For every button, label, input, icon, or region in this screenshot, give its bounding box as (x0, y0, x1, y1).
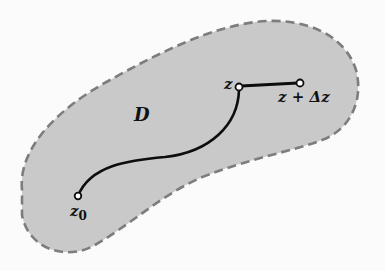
domain-diagram (0, 0, 385, 271)
z0-base: z (70, 202, 79, 220)
z0-subscript: 0 (79, 209, 87, 223)
point-z0 (75, 193, 82, 200)
point-z-plus-delta (297, 80, 304, 87)
point-label-z0: z0 (70, 204, 87, 222)
point-label-z-plus-delta-z: z + Δz (278, 90, 330, 105)
region-label-d: D (134, 106, 150, 124)
point-label-z: z (224, 77, 233, 92)
point-z (236, 84, 243, 91)
